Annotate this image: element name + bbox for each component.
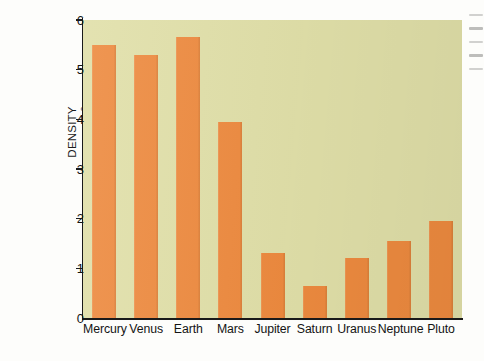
x-tick-label-saturn: Saturn [294, 322, 336, 336]
y-axis-title-line1: DENSITY [66, 106, 80, 157]
x-tick-label-earth: Earth [167, 322, 209, 336]
bar-pluto [429, 221, 453, 318]
x-tick-label-mercury: Mercury [83, 322, 125, 336]
bar-saturn [303, 286, 327, 318]
bar-jupiter [261, 253, 285, 318]
x-axis-labels: MercuryVenusEarthMarsJupiterSaturnUranus… [83, 322, 462, 340]
y-tick-label: 2 [52, 211, 84, 227]
plot-area [83, 20, 462, 318]
x-tick-label-pluto: Pluto [420, 322, 462, 336]
page-edge-bleed-marks [469, 14, 483, 70]
bar-earth [176, 37, 200, 318]
x-tick-label-uranus: Uranus [336, 322, 378, 336]
x-tick-label-neptune: Neptune [378, 322, 420, 336]
y-tick-label: 1 [52, 260, 84, 276]
bar-venus [134, 55, 158, 318]
y-tick-label: 6 [52, 12, 84, 28]
x-tick-label-jupiter: Jupiter [251, 322, 293, 336]
x-tick-label-mars: Mars [209, 322, 251, 336]
y-axis-line [82, 18, 84, 320]
bar-mars [218, 122, 242, 318]
bar-neptune [387, 241, 411, 318]
x-axis-line [82, 318, 463, 320]
x-tick-label-venus: Venus [125, 322, 167, 336]
density-bar-chart-figure: DENSITY (gram/cm3) 0123456 MercuryVenusE… [0, 0, 484, 361]
bar-mercury [92, 45, 116, 318]
y-tick-label: 0 [52, 310, 84, 326]
bar-uranus [345, 258, 369, 318]
